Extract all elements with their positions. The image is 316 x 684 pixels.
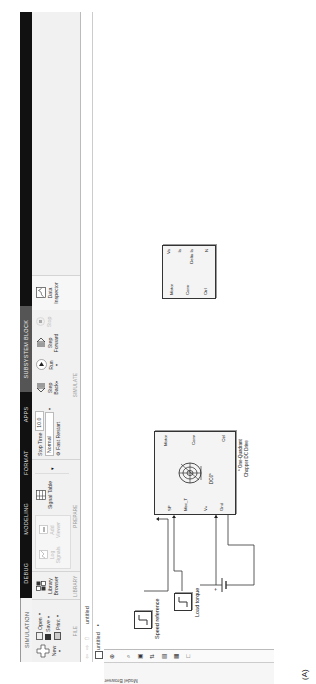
prepare-group-label: PREPARE <box>73 460 78 572</box>
file-group-label: FILE <box>73 600 78 662</box>
output-port-va: Va <box>166 249 171 254</box>
model-canvas[interactable]: Speed reference Load torque + SP Mec_T V… <box>104 12 274 649</box>
signal-table-button[interactable]: Signal Table <box>36 480 53 510</box>
image-icon[interactable]: ▦ <box>172 652 180 660</box>
run-play-icon <box>36 360 47 371</box>
address-model-name[interactable]: untitled <box>84 606 90 624</box>
figure-caption: (A) <box>300 669 309 680</box>
area-icon[interactable]: □ <box>184 652 192 660</box>
input-port-sp: SP <box>167 505 172 511</box>
chevron-down-icon: ▾ <box>47 408 52 410</box>
stop-button[interactable]: Stop <box>36 314 52 330</box>
new-plus-icon <box>36 644 50 658</box>
motor-drive-icon <box>177 460 203 486</box>
input-port-mec-t: Mec_T <box>183 498 188 511</box>
log-signals-button[interactable]: Log Signals <box>39 544 61 566</box>
prepare-gallery: Log Signals Add Viewer <box>35 515 71 569</box>
dc-drive-block[interactable]: SP Mec_T V+ Gnd Motor Conv Ctrl DC6* <box>154 431 236 515</box>
speed-reference-label: Speed reference <box>154 598 160 639</box>
printer-icon <box>54 632 61 640</box>
input-port-gnd: Gnd <box>219 503 224 511</box>
address-bar: ⇦ ⇨ ⇧ untitled <box>81 12 93 662</box>
zoom-icon[interactable]: ⌕ <box>124 652 132 660</box>
ribbon: New▾ Open▾ Save▾ Print▾ FILE Library Bro… <box>32 12 81 662</box>
library-group: Library Browser LIBRARY <box>32 571 80 600</box>
signal-table-icon <box>36 490 46 500</box>
drive-caption-line2: Chopper DC Drive <box>244 440 249 477</box>
folder-icon <box>36 632 43 640</box>
step-back-icon <box>36 383 46 394</box>
speed-reference-step-block[interactable] <box>134 611 152 629</box>
output-port-ia: Ia <box>177 249 182 253</box>
breadcrumb-chevron-icon[interactable]: ▸ <box>95 624 100 626</box>
drive-caption-line1: * One-Quadrant <box>238 439 243 471</box>
tab-debug[interactable]: DEBUG <box>20 549 32 598</box>
add-viewer-icon <box>39 526 48 535</box>
stop-time-input[interactable]: 10.0 <box>35 411 44 431</box>
input-port-motor: Motor <box>169 284 174 295</box>
simulate-group-label: SIMULATE <box>73 310 78 460</box>
fit-to-view-icon[interactable]: ▣ <box>136 652 144 660</box>
library-group-label: LIBRARY <box>73 572 78 600</box>
file-group: New▾ Open▾ Save▾ Print▾ FILE <box>32 599 80 662</box>
step-back-button[interactable]: Step Back▾ <box>36 378 60 398</box>
tab-simulation[interactable]: SIMULATION <box>20 598 33 662</box>
output-port-motor: Motor <box>163 435 168 446</box>
nav-forward-icon[interactable]: ⇨ <box>83 645 90 650</box>
breadcrumb-model-name[interactable]: untitled <box>95 632 101 650</box>
stop-icon <box>36 318 45 327</box>
battery-plus-label: + <box>212 588 218 591</box>
prepare-expand-button[interactable]: ▾ <box>35 463 69 474</box>
step-icon <box>135 612 151 628</box>
model-browser-tab[interactable]: Model Browser <box>104 662 274 684</box>
nav-back-icon[interactable]: ⇦ <box>83 654 90 659</box>
library-browser-button[interactable]: Library Browser <box>36 574 59 598</box>
log-signals-icon <box>39 551 48 560</box>
simulation-mode-select[interactable]: Normal▾ <box>45 408 54 456</box>
ribbon-tab-bar: SIMULATION DEBUG MODELING FORMAT APPS SU… <box>20 12 32 662</box>
arrange-arrows-icon[interactable]: ⇅ <box>148 652 156 660</box>
annotation-icon[interactable]: ▤ <box>160 652 168 660</box>
step-icon <box>175 594 191 610</box>
prepare-group: Log Signals Add Viewer Signal Table ▾ PR… <box>32 459 80 572</box>
input-port-vplus: V+ <box>203 506 208 511</box>
drive-center-label: DC6* <box>209 473 214 484</box>
fast-restart-icon: ⚙ <box>55 452 61 456</box>
simulation-mode-value: Normal <box>45 412 54 456</box>
model-icon <box>95 651 103 659</box>
input-port-ctrl: Ctrl <box>203 288 208 295</box>
output-port-delta-ia: Delta Ia <box>189 249 194 264</box>
data-inspector-button[interactable]: Data Inspector <box>36 279 59 307</box>
data-inspector-icon <box>36 288 46 299</box>
fast-restart-toggle[interactable]: ⚙ Fast Restart <box>55 422 61 456</box>
load-torque-step-block[interactable] <box>174 593 192 611</box>
simulink-window: SIMULATION DEBUG MODELING FORMAT APPS SU… <box>0 0 316 684</box>
save-button[interactable]: Save▾ <box>45 616 51 640</box>
output-port-n: N <box>204 249 209 252</box>
library-grid-icon <box>36 581 46 591</box>
tab-modeling[interactable]: MODELING <box>20 489 32 549</box>
open-button[interactable]: Open▾ <box>36 613 43 640</box>
step-forward-icon <box>36 338 46 349</box>
output-port-conv: Conv <box>191 435 196 445</box>
tab-subsystem-block[interactable]: SUBSYSTEM BLOCK <box>20 306 32 393</box>
review-group: Data Inspector <box>32 275 80 310</box>
output-port-ctrl: Ctrl <box>221 435 226 442</box>
tab-format[interactable]: FORMAT <box>20 436 32 489</box>
add-viewer-button[interactable]: Add Viewer <box>39 519 61 541</box>
run-button[interactable]: Run▾ <box>36 356 60 374</box>
save-disk-icon <box>45 634 51 640</box>
print-button[interactable]: Print▾ <box>54 615 61 640</box>
nav-up-icon[interactable]: ⇧ <box>83 636 90 641</box>
simulate-group: Stop Time 10.0 Normal▾ ⚙ Fast Restart St… <box>32 309 80 460</box>
hide-show-browser-icon[interactable]: ⊕ <box>108 652 116 660</box>
canvas-toolstrip: ⊕ ⌕ ▣ ⇅ ▤ ▦ □ <box>104 649 274 662</box>
stop-time-control: Stop Time 10.0 <box>35 411 44 456</box>
input-port-conv: Conv <box>185 285 190 295</box>
step-forward-button[interactable]: Step Forward <box>36 332 59 354</box>
new-button[interactable]: New▾ <box>36 643 63 659</box>
signal-lines <box>104 12 274 649</box>
tab-apps[interactable]: APPS <box>20 392 32 436</box>
measurement-selector-block[interactable]: Motor Conv Ctrl Va Ia Delta Ia N <box>162 245 216 299</box>
load-torque-label: Load torque <box>194 588 200 617</box>
